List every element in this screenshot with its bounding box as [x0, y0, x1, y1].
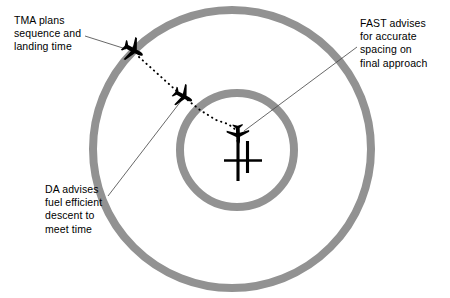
tma-leader-line — [85, 36, 126, 49]
annotation-fast-line-4: final approach — [360, 57, 427, 70]
annotation-tma-line-1: TMA plans — [14, 14, 81, 27]
aircraft-middle-icon — [169, 81, 198, 111]
runway-symbol — [224, 140, 262, 181]
annotation-fast-line-2: for accurate — [360, 30, 427, 43]
da-leader-line — [108, 101, 181, 196]
fast-leader-line — [244, 47, 357, 131]
annotation-da-line-1: DA advises — [45, 183, 102, 196]
annotation-da-line-4: meet time — [45, 223, 102, 236]
annotation-fast-line-1: FAST advises — [360, 17, 427, 30]
annotation-fast: FAST advises for accurate spacing on fin… — [360, 17, 427, 70]
annotation-da-line-2: fuel efficient — [45, 196, 102, 209]
annotation-da: DA advises fuel efficient descent to mee… — [45, 183, 102, 236]
annotation-tma-line-2: sequence and — [14, 27, 81, 40]
annotation-da-line-3: descent to — [45, 209, 102, 222]
diagram-canvas: TMA plans sequence and landing time FAST… — [0, 0, 450, 298]
annotation-tma: TMA plans sequence and landing time — [14, 14, 81, 54]
annotation-tma-line-3: landing time — [14, 40, 81, 53]
annotation-fast-line-3: spacing on — [360, 43, 427, 56]
